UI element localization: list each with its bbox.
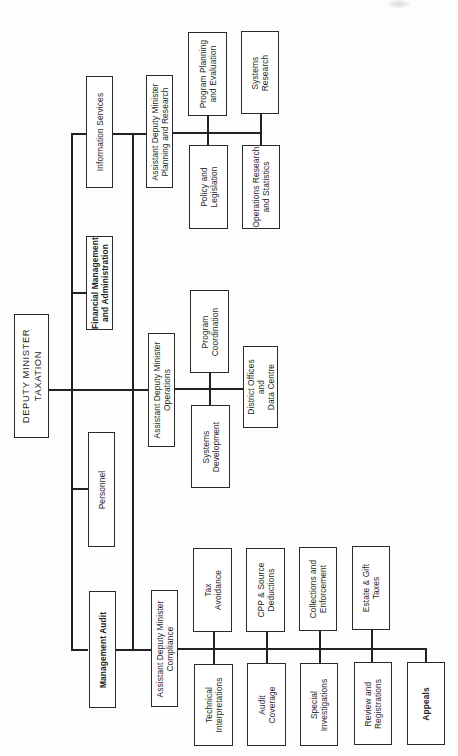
personnel-label: Personnel — [97, 470, 107, 509]
deputy-minister-label: DEPUTY MINISTER TAXATION — [20, 329, 44, 423]
connector-mgmt-audit — [71, 649, 88, 651]
adm-planning-box: Assistant Deputy Minister Planning and R… — [146, 75, 173, 188]
adm-operations-box: Assistant Deputy Minister Operations — [148, 333, 175, 447]
cpp-source-deductions-label: CPP & Source Deductions — [256, 562, 276, 617]
compliance-drop-3 — [319, 631, 321, 664]
audit-coverage-box: Audit Coverage — [247, 663, 286, 746]
program-coordination-label: Program Coordination — [200, 307, 220, 356]
trunk-line — [48, 389, 149, 391]
connector-personnel — [71, 488, 89, 490]
appeals-label: Appeals — [421, 687, 431, 720]
connector-financial-mgmt — [71, 292, 87, 294]
district-offices-box: District Offices and Data Centre — [243, 346, 278, 428]
appeals-box: Appeals — [407, 662, 445, 745]
adm-spine-line — [132, 133, 134, 650]
audit-coverage-label: Audit Coverage — [257, 686, 277, 723]
cpp-source-deductions-box: CPP & Source Deductions — [246, 548, 285, 632]
operations-research-box: Operations Research and Statistics — [242, 145, 280, 229]
operations-research-label: Operations Research and Statistics — [251, 146, 271, 227]
compliance-drop-4 — [371, 630, 373, 662]
policy-legislation-box: Policy and Legislation — [189, 145, 228, 229]
program-planning-label: Program Planning and Evaluation — [198, 40, 218, 109]
operations-drop-1 — [209, 373, 211, 405]
planning-drop-1 — [207, 116, 209, 145]
information-services-box: Information Services — [86, 76, 113, 188]
financial-management-label: Financial Management and Administration — [90, 237, 110, 329]
systems-development-label: Systems Development — [201, 421, 221, 471]
systems-development-box: Systems Development — [191, 405, 230, 488]
financial-management-box: Financial Management and Administration — [86, 236, 113, 330]
connector-info-services — [71, 133, 87, 135]
collections-enforcement-box: Collections and Enforcement — [299, 547, 337, 631]
planning-spine-line — [172, 132, 260, 134]
management-audit-box: Management Audit — [89, 591, 116, 708]
special-investigations-label: Special Investigations — [309, 678, 329, 731]
review-registrations-box: Review and Registrations — [354, 662, 392, 745]
connector-info-to-adm — [112, 133, 146, 135]
compliance-drop-5 — [425, 648, 427, 662]
program-coordination-box: Program Coordination — [190, 290, 229, 373]
adm-planning-label: Assistant Deputy Minister Planning and R… — [150, 83, 170, 180]
tax-avoidance-label: Tax Avoidance — [203, 570, 223, 610]
policy-legislation-label: Policy and Legislation — [199, 166, 219, 207]
adm-compliance-box: Assistant Deputy Minister Compliance — [151, 590, 178, 707]
compliance-drop-2 — [266, 632, 268, 664]
technical-interpretations-box: Technical Interpretations — [194, 664, 233, 746]
planning-drop-2 — [260, 114, 262, 145]
personnel-box: Personnel — [88, 432, 115, 547]
systems-research-box: Systems Research — [241, 31, 279, 114]
information-services-label: Information Services — [95, 93, 105, 171]
compliance-drop-1 — [213, 632, 215, 664]
review-registrations-label: Review and Registrations — [363, 678, 383, 728]
technical-interpretations-label: Technical Interpretations — [204, 677, 224, 732]
scan-smudge — [388, 0, 410, 8]
estate-gift-taxes-label: Estate & Gift Taxes — [361, 564, 381, 612]
program-planning-box: Program Planning and Evaluation — [188, 32, 227, 116]
adm-operations-label: Assistant Deputy Minister Operations — [152, 342, 172, 439]
district-offices-label: District Offices and Data Centre — [246, 359, 276, 414]
connector-audit-to-adm — [115, 649, 151, 651]
deputy-minister-box: DEPUTY MINISTER TAXATION — [14, 314, 49, 438]
org-chart: DEPUTY MINISTER TAXATION Information Ser… — [0, 0, 458, 756]
management-audit-label: Management Audit — [98, 611, 108, 687]
systems-research-label: Systems Research — [250, 54, 270, 91]
collections-enforcement-label: Collections and Enforcement — [308, 560, 328, 619]
tax-avoidance-box: Tax Avoidance — [193, 548, 232, 632]
special-investigations-box: Special Investigations — [300, 663, 338, 746]
staff-spine-line — [71, 133, 73, 650]
adm-compliance-label: Assistant Deputy Minister Compliance — [155, 600, 175, 697]
estate-gift-taxes-box: Estate & Gift Taxes — [352, 546, 390, 630]
